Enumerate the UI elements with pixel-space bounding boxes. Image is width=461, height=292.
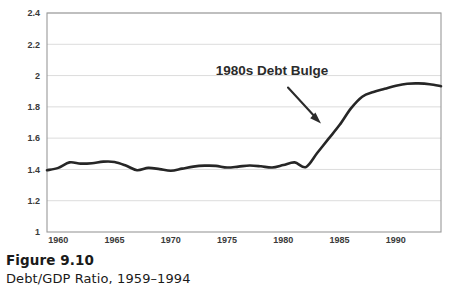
figure-container: 1 1.2 1.4 1.6 1.8 2 2.2 2.4 1960 1965 19… xyxy=(0,0,461,292)
y-tick-label: 1.8 xyxy=(27,102,40,112)
y-tick-label: 2.2 xyxy=(27,40,40,50)
x-tick-label: 1970 xyxy=(161,235,181,245)
x-tick-label: 1975 xyxy=(217,235,237,245)
figure-caption: Figure 9.10 Debt/GDP Ratio, 1959–1994 xyxy=(6,252,446,287)
x-tick-label: 1985 xyxy=(329,235,349,245)
y-tick-label: 2 xyxy=(35,71,40,81)
x-tick-label: 1980 xyxy=(273,235,293,245)
y-tick-label: 2.4 xyxy=(27,8,40,18)
x-axis-tick-labels: 1960 1965 1970 1975 1980 1985 1990 xyxy=(48,235,406,245)
y-tick-label: 1 xyxy=(35,227,40,237)
chart-panel: 1 1.2 1.4 1.6 1.8 2 2.2 2.4 1960 1965 19… xyxy=(0,0,461,250)
y-tick-label: 1.4 xyxy=(27,165,40,175)
plot-background xyxy=(47,13,441,232)
x-tick-label: 1960 xyxy=(48,235,68,245)
annotation-label: 1980s Debt Bulge xyxy=(216,63,329,78)
y-tick-label: 1.2 xyxy=(27,196,40,206)
x-tick-label: 1965 xyxy=(104,235,124,245)
y-axis-tick-labels: 1 1.2 1.4 1.6 1.8 2 2.2 2.4 xyxy=(27,8,40,237)
figure-description: Debt/GDP Ratio, 1959–1994 xyxy=(6,270,446,287)
y-tick-label: 1.6 xyxy=(27,133,40,143)
debt-gdp-line-chart: 1 1.2 1.4 1.6 1.8 2 2.2 2.4 1960 1965 19… xyxy=(0,0,461,250)
x-tick-label: 1990 xyxy=(386,235,406,245)
figure-number: Figure 9.10 xyxy=(6,252,446,269)
